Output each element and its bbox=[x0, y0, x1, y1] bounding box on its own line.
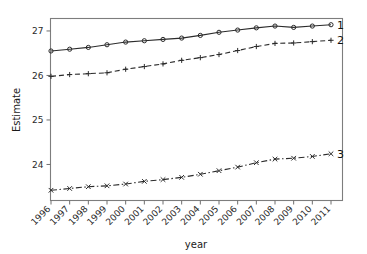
series-label-1: 1 bbox=[337, 19, 344, 32]
y-tick-label: 25 bbox=[32, 115, 43, 125]
series-label-2: 2 bbox=[337, 34, 344, 47]
y-tick-label: 27 bbox=[32, 26, 43, 36]
y-tick-label: 24 bbox=[32, 160, 44, 170]
line-chart-canvas: 24252627 1996199719981999200020012002200… bbox=[0, 0, 367, 254]
y-tick-label: 26 bbox=[32, 71, 44, 81]
chart-figure: 24252627 1996199719981999200020012002200… bbox=[0, 0, 367, 254]
x-axis-title: year bbox=[185, 239, 208, 250]
series-label-3: 3 bbox=[337, 148, 344, 161]
y-axis-title: Estimate bbox=[11, 88, 22, 132]
